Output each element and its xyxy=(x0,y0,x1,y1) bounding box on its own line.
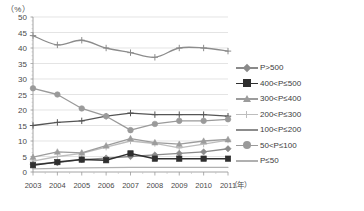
legend-item-1[interactable]: 400<P≤500 xyxy=(236,76,362,92)
data-point-marker xyxy=(225,117,231,123)
data-point-marker xyxy=(30,122,36,128)
data-point-marker xyxy=(127,135,133,141)
legend-marker-icon xyxy=(236,108,258,120)
data-point-marker xyxy=(30,162,35,167)
data-point-marker xyxy=(55,159,60,164)
data-point-marker xyxy=(79,157,84,162)
data-point-marker xyxy=(225,48,231,54)
x-axis-tick-label: 2009 xyxy=(171,181,188,190)
legend-marker-icon xyxy=(236,93,258,105)
data-point-marker xyxy=(200,111,206,117)
legend-item-0[interactable]: P>500 xyxy=(236,60,362,76)
legend-item-5[interactable]: 50<P≤100 xyxy=(236,138,362,154)
data-point-marker xyxy=(176,150,182,156)
data-point-marker xyxy=(103,158,108,163)
data-point-marker xyxy=(128,127,134,133)
legend-item-3[interactable]: 200<P≤300 xyxy=(236,107,362,123)
data-point-marker xyxy=(152,121,158,127)
data-point-marker xyxy=(176,45,182,51)
data-point-marker xyxy=(30,32,36,38)
x-axis-tick-label: 2008 xyxy=(147,181,164,190)
legend-item-label: 300<P≤400 xyxy=(258,94,301,103)
x-axis-tick-label: 2007 xyxy=(122,181,139,190)
data-point-marker xyxy=(177,156,182,161)
data-point-marker xyxy=(127,110,133,116)
data-point-marker xyxy=(103,45,109,51)
legend-item-6[interactable]: P≤50 xyxy=(236,153,362,169)
legend-marker-icon xyxy=(236,62,258,74)
data-point-marker xyxy=(225,156,230,161)
chart-container: （%） 051015202530354045502003200420052006… xyxy=(0,0,364,211)
legend-item-label: P≤50 xyxy=(258,156,279,165)
legend-item-4[interactable]: 100<P≤200 xyxy=(236,122,362,138)
y-axis-tick-label: 25 xyxy=(18,91,27,100)
x-axis-unit-label: （年） xyxy=(230,180,251,190)
y-axis-tick-label: 40 xyxy=(18,44,27,53)
y-axis-tick-label: 15 xyxy=(18,122,27,131)
y-axis-tick-label: 35 xyxy=(18,60,27,69)
data-point-marker xyxy=(152,111,158,117)
data-point-marker xyxy=(128,151,133,156)
legend-item-label: P>500 xyxy=(258,63,283,72)
data-point-marker xyxy=(201,156,206,161)
y-axis-tick-label: 45 xyxy=(18,29,27,38)
chart-legend: P>500400<P≤500300<P≤400200<P≤300100<P≤20… xyxy=(236,60,362,169)
data-point-marker xyxy=(201,118,207,124)
data-point-marker xyxy=(55,92,61,98)
data-point-marker xyxy=(152,156,157,161)
data-point-marker xyxy=(30,86,36,92)
data-point-marker xyxy=(225,146,231,152)
data-point-marker xyxy=(54,42,60,48)
data-point-marker xyxy=(200,149,206,155)
series-line xyxy=(33,167,228,169)
legend-item-2[interactable]: 300<P≤400 xyxy=(236,91,362,107)
legend-item-label: 400<P≤500 xyxy=(258,79,301,88)
data-point-marker xyxy=(200,45,206,51)
x-axis-tick-label: 2005 xyxy=(73,181,90,190)
data-point-marker xyxy=(103,113,109,119)
y-axis-tick-label: 0 xyxy=(23,168,28,177)
data-point-marker xyxy=(79,106,85,112)
data-point-marker xyxy=(127,49,133,55)
data-point-marker xyxy=(54,119,60,125)
legend-marker-icon xyxy=(236,139,258,151)
legend-marker-icon xyxy=(236,124,258,136)
y-axis-tick-label: 50 xyxy=(18,13,27,22)
x-axis-tick-label: 2006 xyxy=(98,181,115,190)
data-point-marker xyxy=(152,54,158,60)
x-axis-tick-label: 2004 xyxy=(49,181,66,190)
y-axis-tick-label: 30 xyxy=(18,75,27,84)
legend-item-label: 100<P≤200 xyxy=(258,125,301,134)
legend-marker-icon xyxy=(236,77,258,89)
data-point-marker xyxy=(79,118,85,124)
data-point-marker xyxy=(79,37,85,43)
y-axis-tick-label: 20 xyxy=(18,106,27,115)
legend-item-label: 50<P≤100 xyxy=(258,141,297,150)
data-point-marker xyxy=(176,111,182,117)
legend-item-label: 200<P≤300 xyxy=(258,110,301,119)
legend-marker-icon xyxy=(236,155,258,167)
x-axis-tick-label: 2010 xyxy=(195,181,212,190)
y-axis-tick-label: 5 xyxy=(23,153,28,162)
x-axis-tick-label: 2003 xyxy=(25,181,42,190)
y-axis-tick-label: 10 xyxy=(18,137,27,146)
data-point-marker xyxy=(176,118,182,124)
